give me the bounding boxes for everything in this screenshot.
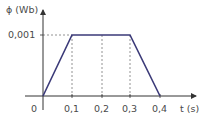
flux-series-line [43,35,160,96]
x-tick-label-3: 0,3 [122,103,137,114]
origin-label: 0 [31,103,37,114]
x-axis-label: t (s) [180,103,199,114]
x-tick-label-4: 0,4 [152,103,167,114]
x-tick-label-1: 0,1 [64,103,79,114]
x-tick-label-2: 0,2 [94,103,109,114]
flux-time-chart: ϕ (Wb) 0,001 0 0,1 0,2 0,3 0,4 t (s) [0,0,203,119]
guide-lines [43,35,130,96]
y-tick-label: 0,001 [8,29,35,40]
y-axis-label: ϕ (Wb) [6,4,38,15]
